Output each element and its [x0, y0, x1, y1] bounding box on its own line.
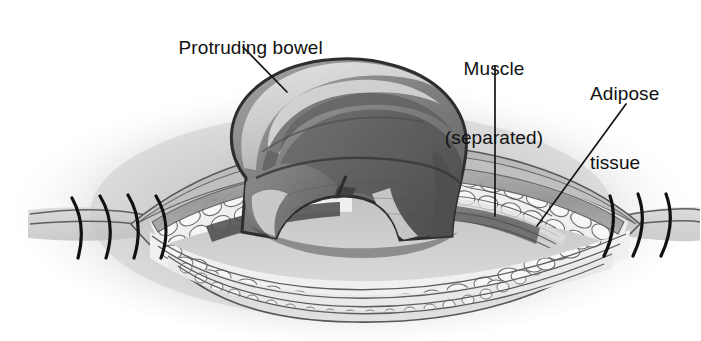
label-adipose-tissue: Adipose tissue: [590, 36, 659, 220]
label-protruding-bowel: Protruding bowel: [157, 13, 323, 82]
label-adipose-line1: Adipose: [590, 82, 659, 105]
medical-illustration-figure: Protruding bowel Muscle (separated) Adip…: [0, 0, 701, 341]
label-adipose-line2: tissue: [590, 151, 659, 174]
label-muscle-separated: Muscle (separated): [430, 11, 558, 195]
label-muscle-line1: Muscle: [430, 57, 558, 80]
label-muscle-line2: (separated): [430, 126, 558, 149]
label-protruding-bowel-text: Protruding bowel: [179, 37, 323, 58]
